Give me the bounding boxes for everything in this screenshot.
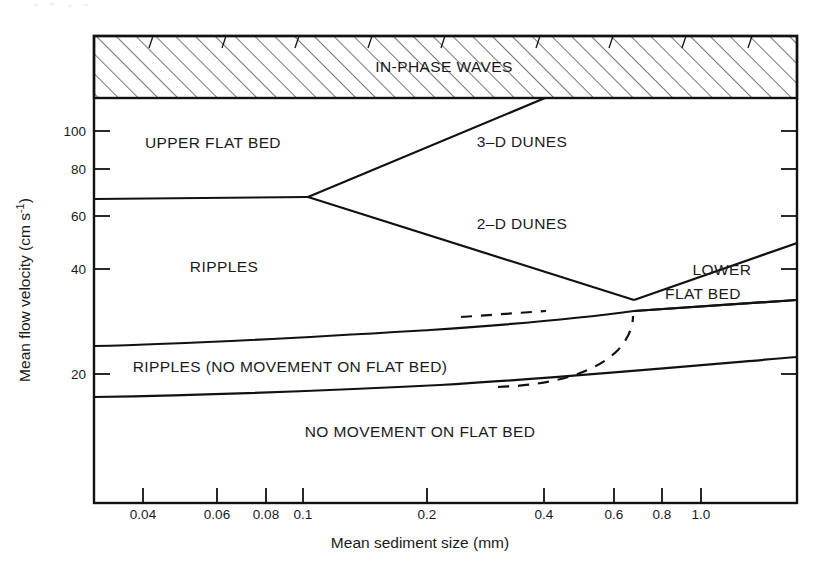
x-axis-ticks (143, 488, 701, 503)
region-label-lower-flat-bed-line2: FLAT BED (665, 285, 741, 302)
x-tick-label-04: 0.4 (535, 507, 554, 522)
boundary-3d-to-2d-dunes (308, 197, 634, 300)
x-tick-label-06: 0.6 (605, 507, 624, 522)
region-label-ripples: RIPPLES (190, 258, 258, 275)
svg-text:Mean flow velocity (cm s-1): Mean flow velocity (cm s-1) (14, 198, 33, 382)
region-labels: IN-PHASE WAVES UPPER FLAT BED 3–D DUNES … (133, 58, 752, 440)
region-label-2d-dunes: 2–D DUNES (477, 215, 568, 232)
region-label-in-phase-waves: IN-PHASE WAVES (375, 58, 512, 75)
region-label-3d-dunes: 3–D DUNES (477, 133, 568, 150)
boundary-dashed-upper-segment (461, 311, 546, 317)
x-axis-title: Mean sediment size (mm) (331, 534, 509, 551)
y-tick-label-60: 60 (71, 209, 86, 224)
x-tick-label-006: 0.06 (204, 507, 230, 522)
boundary-ripples-upper-limit (94, 300, 797, 346)
x-axis-tick-labels: 0.04 0.06 0.08 0.1 0.2 0.4 0.6 0.8 1.0 (130, 507, 711, 522)
region-label-no-movement-flat-bed: NO MOVEMENT ON FLAT BED (305, 423, 536, 440)
y-axis-title-main: Mean flow velocity (cm s (16, 213, 33, 382)
x-tick-label-01: 0.1 (294, 507, 313, 522)
scan-artifact-smudge (26, 1, 96, 10)
region-label-ripples-no-movement: RIPPLES (NO MOVEMENT ON FLAT BED) (133, 358, 448, 375)
region-label-lower-flat-bed-line1: LOWER (693, 261, 752, 278)
x-tick-label-08: 0.8 (653, 507, 672, 522)
boundary-upper-flat-bed-to-ripples (94, 197, 308, 199)
x-tick-label-10: 1.0 (692, 507, 711, 522)
x-tick-label-004: 0.04 (130, 507, 157, 522)
region-label-upper-flat-bed: UPPER FLAT BED (145, 134, 281, 151)
diagram-canvas: IN-PHASE WAVES UPPER FLAT BED 3–D DUNES … (0, 0, 827, 579)
y-axis-title-superscript: -1 (14, 203, 26, 213)
y-axis-tick-labels: 100 80 60 40 20 (63, 124, 86, 382)
x-tick-label-008: 0.08 (253, 507, 279, 522)
x-tick-label-02: 0.2 (418, 507, 437, 522)
bedform-phase-diagram-figure: IN-PHASE WAVES UPPER FLAT BED 3–D DUNES … (0, 0, 827, 579)
y-tick-label-80: 80 (71, 162, 86, 177)
y-axis-title: Mean flow velocity (cm s-1) (14, 198, 33, 382)
y-tick-label-40: 40 (71, 262, 86, 277)
y-axis-ticks (94, 131, 797, 374)
y-tick-label-100: 100 (63, 124, 86, 139)
y-axis-title-suffix: ) (16, 198, 33, 203)
y-tick-label-20: 20 (71, 367, 86, 382)
